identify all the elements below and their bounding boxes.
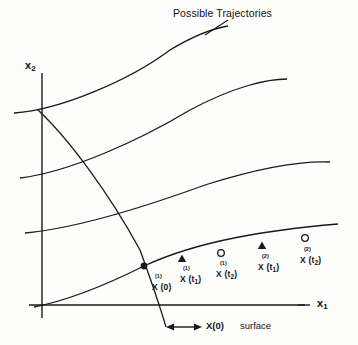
point-label-paren-x1-t2: ) — [234, 269, 237, 279]
point-superscript-x2-t1: (2) — [262, 253, 269, 259]
point-label-base-x1-t1: X (t — [180, 274, 195, 284]
x-axis-label: x1 — [317, 298, 328, 311]
y-axis-label: x2 — [25, 60, 36, 73]
point-label-base-x1-t2: X (t — [216, 269, 231, 279]
point-label-paren-x2-t2: ) — [318, 255, 321, 265]
surface-arrow-head-right — [194, 323, 202, 330]
marker-x1-t2-open-circle — [218, 250, 225, 257]
point-label-x1-t2: X (t2) — [216, 270, 237, 280]
point-label-base-x2-t1: X (t — [258, 262, 273, 272]
point-label-base-x2-t2: X (t — [300, 255, 315, 265]
x-axis-label-sub: 1 — [323, 302, 327, 311]
point-superscript-x2-t2: (2) — [304, 246, 311, 252]
marker-x1-t0-filled-dot — [141, 263, 148, 270]
point-label-base-x1-t0: X (0) — [152, 282, 171, 292]
point-superscript-x1-t0: (1) — [155, 273, 162, 279]
surface-arrow-head-left — [166, 323, 174, 330]
point-superscript-x1-t1: (1) — [183, 265, 190, 271]
marker-x1-t1-triangle — [178, 254, 186, 262]
y-axis-label-sub: 2 — [31, 64, 35, 73]
trajectory-curve-1 — [14, 26, 228, 113]
trajectory-diagram: Possible Trajectories x2 x1 (1)X (0)(1)X… — [0, 0, 358, 345]
trajectory-curve-2 — [20, 79, 287, 178]
marker-x2-t2-open-circle — [302, 235, 309, 242]
point-label-x2-t2: X (t2) — [300, 256, 321, 266]
surface-annotation-word: surface — [240, 321, 271, 331]
point-superscript-x1-t2: (1) — [220, 260, 227, 266]
marker-x2-t1-triangle — [258, 241, 266, 249]
surface-annotation-label: X(0) — [206, 321, 224, 331]
point-label-x1-t1: X (t1) — [180, 275, 201, 285]
point-label-x1-t0: X (0) — [152, 283, 171, 292]
point-label-paren-x1-t1: ) — [198, 274, 201, 284]
point-label-paren-x2-t1: ) — [276, 262, 279, 272]
diagram-canvas — [0, 0, 358, 345]
chart-title: Possible Trajectories — [173, 8, 272, 19]
point-label-x2-t1: X (t1) — [258, 263, 279, 273]
trajectory-curve-3 — [25, 162, 330, 233]
title-leader-line — [205, 20, 228, 35]
